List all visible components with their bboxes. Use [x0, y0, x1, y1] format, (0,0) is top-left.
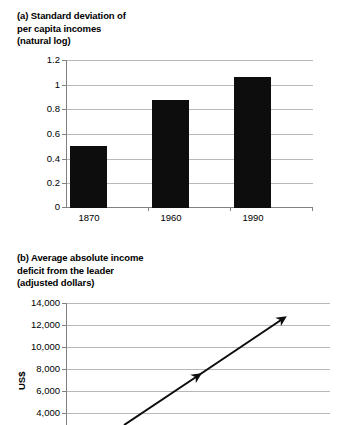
ytick-label-12000: 12,000: [10, 320, 60, 330]
ytick-label-10000: 10,000: [10, 342, 60, 352]
chart-a-grid: 1.2 1 0.8 0.6 0.4 0.2 0: [66, 60, 313, 208]
chart-b-title: (b) Average absolute income deficit from…: [17, 252, 143, 290]
xtick-label-1870: 1870: [66, 213, 112, 223]
bar-1870: [70, 146, 107, 209]
gridline-1.0: [66, 85, 313, 86]
ytick-label-6000: 6,000: [10, 386, 60, 396]
chart-a-plot-area: 1.2 1 0.8 0.6 0.4 0.2 0: [66, 60, 313, 208]
ytick-label-14000: 14,000: [10, 298, 60, 308]
ytick-mark-0: [62, 207, 66, 208]
chart-b-trend-line: [66, 303, 330, 425]
trend-segment-2: [196, 318, 284, 377]
ytick-label-0.4: 0.4: [14, 154, 60, 164]
trend-segment-1: [124, 375, 199, 425]
ytick-mark-1.2: [62, 60, 66, 61]
ytick-mark-1.0: [62, 85, 66, 86]
xtick-label-1960: 1960: [148, 213, 194, 223]
ytick-label-1.2: 1.2: [14, 55, 60, 65]
chart-b-plot-area: 14,000 12,000 10,000 8,000 6,000 4,000: [66, 303, 330, 425]
chart-b-grid: 14,000 12,000 10,000 8,000 6,000 4,000: [66, 303, 330, 425]
ytick-label-1.0: 1: [14, 80, 60, 90]
bar-1960: [152, 100, 189, 208]
ytick-mark-0.2: [62, 183, 66, 184]
ytick-mark-0.4: [62, 159, 66, 160]
ytick-mark-0.6: [62, 134, 66, 135]
chart-a-y-axis: [66, 60, 67, 208]
ytick-mark-0.8: [62, 109, 66, 110]
gridline-0.6: [66, 134, 313, 135]
ytick-label-0: 0: [14, 202, 60, 212]
ytick-label-8000: 8,000: [10, 364, 60, 374]
bar-1990: [234, 77, 271, 208]
gridline-1.2: [66, 60, 313, 61]
ytick-label-0.6: 0.6: [14, 129, 60, 139]
ytick-label-4000: 4,000: [10, 408, 60, 418]
xtick-mark-3: [312, 207, 313, 211]
chart-a-title: (a) Standard deviation of per capita inc…: [17, 10, 126, 48]
ytick-label-0.8: 0.8: [14, 104, 60, 114]
gridline-0.8: [66, 109, 313, 110]
xtick-mark-1: [148, 207, 149, 211]
xtick-label-1990: 1990: [230, 213, 276, 223]
xtick-mark-2: [230, 207, 231, 211]
ytick-label-0.2: 0.2: [14, 178, 60, 188]
chart-a-x-tick-labels: 1870 1960 1990: [66, 213, 313, 225]
